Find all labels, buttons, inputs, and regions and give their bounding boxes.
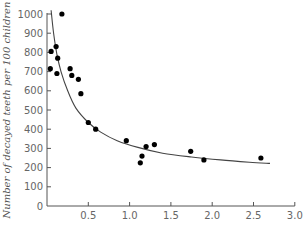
data-point: [78, 91, 83, 96]
x-tick-label: 1.0: [122, 210, 138, 221]
data-point: [86, 120, 91, 125]
data-point: [55, 56, 60, 61]
data-point: [48, 66, 53, 71]
data-point: [138, 160, 143, 165]
data-point: [54, 44, 59, 49]
y-axis-title: Number of decayed teeth per 100 children: [1, 2, 12, 220]
data-point: [93, 127, 98, 132]
x-tick-label: 2.0: [204, 210, 220, 221]
data-point: [139, 154, 144, 159]
x-tick-label: 3.0: [287, 210, 303, 221]
y-tick-label: 700: [24, 66, 43, 77]
data-point: [68, 66, 73, 71]
y-tick-label: 0: [37, 201, 43, 212]
data-point: [201, 157, 206, 162]
data-point: [76, 77, 81, 82]
y-tick-label: 1000: [18, 9, 43, 20]
data-point: [54, 71, 59, 76]
scatter-chart: 01002003004005006007008009001000 0.51.01…: [0, 0, 307, 225]
data-point: [124, 138, 129, 143]
x-tick-label: 1.5: [163, 210, 179, 221]
data-point: [188, 149, 193, 154]
y-tick-label: 400: [24, 124, 43, 135]
y-tick-label: 500: [24, 105, 43, 116]
data-points: [48, 11, 264, 165]
data-point: [59, 11, 64, 16]
data-point: [49, 49, 54, 54]
data-point: [258, 155, 263, 160]
x-tick-label: 2.5: [246, 210, 262, 221]
y-axis: 01002003004005006007008009001000: [18, 9, 51, 212]
y-tick-label: 600: [24, 85, 43, 96]
x-tick-label: 0.5: [80, 210, 96, 221]
y-tick-label: 900: [24, 28, 43, 39]
x-axis: 0.51.01.52.02.53.0: [47, 202, 303, 221]
y-tick-label: 300: [24, 143, 43, 154]
data-point: [69, 73, 74, 78]
fitted-curve: [51, 10, 270, 163]
y-tick-label: 100: [24, 181, 43, 192]
y-tick-label: 800: [24, 47, 43, 58]
data-point: [152, 142, 157, 147]
y-tick-label: 200: [24, 162, 43, 173]
data-point: [144, 144, 149, 149]
